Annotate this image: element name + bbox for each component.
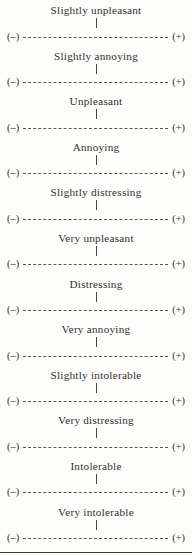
anchor-negative: (–) <box>7 31 19 43</box>
scale-tick <box>0 427 192 439</box>
tick-mark-icon <box>96 292 97 302</box>
scale-tick <box>0 382 192 394</box>
scale-line-row[interactable]: (–) (+) <box>0 531 192 546</box>
scale-dashed-line[interactable] <box>23 538 168 540</box>
scale-dashed-line[interactable] <box>23 310 168 312</box>
scale-line-row[interactable]: (–) (+) <box>0 394 192 409</box>
scale-line-row[interactable]: (–) (+) <box>0 29 192 44</box>
anchor-negative: (–) <box>7 167 19 179</box>
anchor-positive: (+) <box>172 441 185 453</box>
scale-item: Slightly distressing (–) (+) <box>0 185 192 231</box>
scale-dashed-line[interactable] <box>23 356 168 358</box>
scale-item: Very intolerable (–) (+) <box>0 505 192 551</box>
tick-mark-icon <box>96 428 97 438</box>
scale-item: Very unpleasant (–) (+) <box>0 231 192 277</box>
tick-mark-icon <box>96 155 97 165</box>
scale-item: Distressing (–) (+) <box>0 277 192 323</box>
anchor-negative: (–) <box>7 304 19 316</box>
scale-tick <box>0 154 192 166</box>
anchor-positive: (+) <box>172 350 185 362</box>
tick-mark-icon <box>96 246 97 256</box>
anchor-positive: (+) <box>172 395 185 407</box>
tick-mark-icon <box>96 18 97 28</box>
anchor-negative: (–) <box>7 213 19 225</box>
scale-tick <box>0 63 192 75</box>
scale-label: Unpleasant <box>70 94 123 108</box>
scale-dashed-line[interactable] <box>23 173 168 175</box>
scale-tick <box>0 473 192 485</box>
scale-label: Distressing <box>69 277 122 291</box>
scale-tick <box>0 108 192 120</box>
anchor-positive: (+) <box>172 213 185 225</box>
scale-dashed-line[interactable] <box>23 492 168 494</box>
scale-line-row[interactable]: (–) (+) <box>0 439 192 454</box>
tick-mark-icon <box>96 520 97 530</box>
scale-tick <box>0 291 192 303</box>
scale-item: Slightly intolerable (–) (+) <box>0 368 192 414</box>
tick-mark-icon <box>96 200 97 210</box>
scale-tick <box>0 245 192 257</box>
anchor-positive: (+) <box>172 486 185 498</box>
scale-label: Slightly intolerable <box>50 368 141 382</box>
scale-label: Very unpleasant <box>58 231 134 245</box>
scale-item: Slightly annoying (–) (+) <box>0 49 192 95</box>
anchor-negative: (–) <box>7 258 19 270</box>
scale-line-row[interactable]: (–) (+) <box>0 485 192 500</box>
scale-label: Very intolerable <box>58 505 134 519</box>
scale-line-row[interactable]: (–) (+) <box>0 75 192 90</box>
scale-item: Unpleasant (–) (+) <box>0 94 192 140</box>
scale-dashed-line[interactable] <box>23 128 168 130</box>
scale-dashed-line[interactable] <box>23 37 168 39</box>
anchor-negative: (–) <box>7 395 19 407</box>
scale-line-row[interactable]: (–) (+) <box>0 348 192 363</box>
scale-label: Slightly annoying <box>54 49 138 63</box>
scale-item: Slightly unpleasant (–) (+) <box>0 3 192 49</box>
anchor-positive: (+) <box>172 532 185 544</box>
anchor-negative: (–) <box>7 532 19 544</box>
scale-line-row[interactable]: (–) (+) <box>0 211 192 226</box>
page-bottom-rule <box>0 552 192 553</box>
anchor-negative: (–) <box>7 76 19 88</box>
scale-line-row[interactable]: (–) (+) <box>0 257 192 272</box>
anchor-negative: (–) <box>7 441 19 453</box>
scale-tick <box>0 17 192 29</box>
scale-label: Annoying <box>73 140 120 154</box>
scale-dashed-line[interactable] <box>23 447 168 449</box>
scale-line-row[interactable]: (–) (+) <box>0 303 192 318</box>
scale-dashed-line[interactable] <box>23 82 168 84</box>
scale-line-row[interactable]: (–) (+) <box>0 120 192 135</box>
tick-mark-icon <box>96 383 97 393</box>
scale-line-row[interactable]: (–) (+) <box>0 166 192 181</box>
scale-tick <box>0 199 192 211</box>
rating-scale-sheet: Slightly unpleasant (–) (+) Slightly ann… <box>0 0 192 556</box>
tick-mark-icon <box>96 337 97 347</box>
tick-mark-icon <box>96 64 97 74</box>
scale-label: Slightly unpleasant <box>51 3 142 17</box>
anchor-positive: (+) <box>172 31 185 43</box>
anchor-positive: (+) <box>172 122 185 134</box>
anchor-negative: (–) <box>7 350 19 362</box>
scale-tick <box>0 336 192 348</box>
tick-mark-icon <box>96 474 97 484</box>
scale-label: Slightly distressing <box>50 185 141 199</box>
scale-dashed-line[interactable] <box>23 264 168 266</box>
scale-item: Very distressing (–) (+) <box>0 413 192 459</box>
scale-item: Intolerable (–) (+) <box>0 459 192 505</box>
anchor-positive: (+) <box>172 167 185 179</box>
scale-label: Very annoying <box>62 322 131 336</box>
anchor-positive: (+) <box>172 304 185 316</box>
anchor-positive: (+) <box>172 76 185 88</box>
anchor-negative: (–) <box>7 122 19 134</box>
anchor-positive: (+) <box>172 258 185 270</box>
scale-tick <box>0 519 192 531</box>
scale-item: Annoying (–) (+) <box>0 140 192 186</box>
scale-item: Very annoying (–) (+) <box>0 322 192 368</box>
scale-label: Very distressing <box>58 413 134 427</box>
scale-label: Intolerable <box>70 459 121 473</box>
anchor-negative: (–) <box>7 486 19 498</box>
scale-dashed-line[interactable] <box>23 219 168 221</box>
scale-dashed-line[interactable] <box>23 401 168 403</box>
tick-mark-icon <box>96 109 97 119</box>
